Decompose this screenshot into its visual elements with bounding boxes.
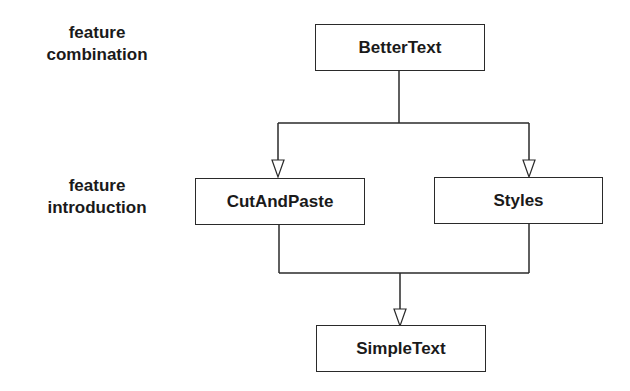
node-cutandpaste: CutAndPaste	[195, 178, 365, 225]
node-label: SimpleText	[356, 339, 445, 359]
arrowhead-icon	[272, 160, 284, 177]
arrowhead-icon	[523, 160, 535, 177]
node-styles: Styles	[434, 177, 603, 224]
node-simpletext: SimpleText	[316, 325, 486, 372]
arrowhead-icon	[394, 309, 406, 326]
node-bettertext: BetterText	[315, 24, 485, 71]
node-label: Styles	[493, 191, 543, 211]
node-label: CutAndPaste	[227, 192, 334, 212]
node-label: BetterText	[359, 38, 442, 58]
